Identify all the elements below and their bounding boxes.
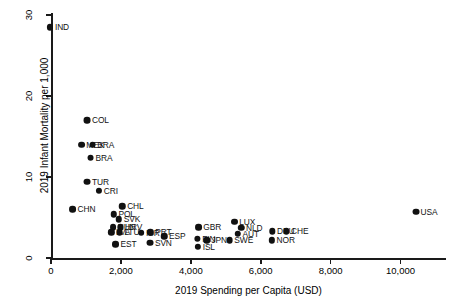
data-point-label: COL bbox=[92, 116, 109, 124]
data-point-marker bbox=[194, 235, 201, 242]
data-point-label: EST bbox=[120, 240, 136, 248]
data-point-marker bbox=[269, 237, 276, 244]
data-point-marker bbox=[226, 237, 233, 244]
data-point-marker bbox=[116, 229, 123, 236]
data-point: COL bbox=[84, 116, 109, 124]
data-point-marker bbox=[87, 154, 94, 161]
data-point: ISL bbox=[195, 242, 215, 250]
data-point-marker bbox=[231, 218, 238, 225]
data-point-marker bbox=[78, 141, 85, 148]
data-point-label: BRA bbox=[97, 140, 114, 148]
data-point-marker bbox=[147, 239, 154, 246]
data-point-marker bbox=[138, 230, 145, 237]
data-point: SWE bbox=[226, 236, 253, 244]
data-point-marker bbox=[147, 229, 154, 236]
data-point: SVN bbox=[147, 238, 172, 246]
data-point-label: BRA bbox=[95, 153, 112, 161]
data-point-marker bbox=[195, 243, 202, 250]
plot-area: INDCOLMEXBRABRATURCRICHNCHLPOLSVKHUNHRVL… bbox=[0, 0, 454, 308]
data-point-marker bbox=[283, 228, 290, 235]
data-point-marker bbox=[269, 228, 276, 235]
data-point: EST bbox=[112, 240, 136, 248]
data-point-label: CRI bbox=[104, 187, 118, 195]
data-point: NOR bbox=[269, 236, 295, 244]
data-point-label: GBR bbox=[203, 223, 221, 231]
data-point-label: IND bbox=[55, 23, 69, 31]
data-point-marker bbox=[47, 24, 54, 31]
data-point-marker bbox=[84, 179, 91, 186]
data-point-label: SWE bbox=[234, 236, 253, 244]
data-point: BRA bbox=[89, 140, 114, 148]
data-point-label: ISL bbox=[203, 242, 215, 250]
data-point: CRI bbox=[96, 187, 118, 195]
scatter-chart: 0102030 02,0004,0006,0008,00010,000 2019… bbox=[0, 0, 454, 308]
data-point-marker bbox=[195, 224, 202, 231]
data-point-marker bbox=[108, 229, 115, 236]
data-point: LTU bbox=[116, 228, 139, 236]
data-point: IND bbox=[47, 23, 69, 31]
data-point: USA bbox=[413, 208, 438, 216]
data-point: BRA bbox=[87, 153, 112, 161]
data-point-marker bbox=[413, 209, 420, 216]
data-point-marker bbox=[89, 141, 96, 148]
data-point: CHN bbox=[70, 205, 96, 213]
data-point: GBR bbox=[195, 223, 221, 231]
data-point-label: CHN bbox=[78, 205, 96, 213]
data-point-marker bbox=[112, 241, 119, 248]
data-point-label: SVN bbox=[155, 238, 172, 246]
data-point-marker bbox=[96, 188, 103, 195]
data-point-label: USA bbox=[421, 208, 438, 216]
data-point-marker bbox=[70, 206, 77, 213]
data-point-label: NOR bbox=[277, 236, 295, 244]
data-point-marker bbox=[84, 117, 91, 124]
